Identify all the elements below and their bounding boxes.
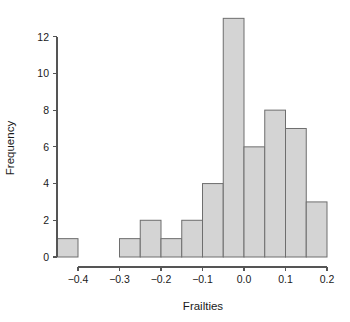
y-axis-tick-label: 10	[37, 67, 49, 79]
x-axis-tick-label: 0.0	[237, 273, 252, 285]
histogram-bar	[57, 239, 78, 257]
y-axis-title: Frequency	[4, 121, 16, 176]
x-axis-tick-label: 0.2	[320, 273, 335, 285]
y-axis-tick-label: 6	[43, 141, 49, 153]
y-axis-tick-label: 4	[43, 177, 49, 189]
histogram-bar	[286, 128, 307, 257]
histogram-bar	[203, 184, 224, 257]
x-axis-tick-label: 0.1	[278, 273, 293, 285]
y-axis-tick-label: 2	[43, 214, 49, 226]
histogram-figure: 024681012 −0.4−0.3−0.2−0.10.00.10.2 Freq…	[0, 0, 350, 322]
histogram-bar	[161, 239, 182, 257]
x-axis-tick-label: −0.1	[192, 273, 213, 285]
x-axis-title: Frailties	[183, 300, 224, 312]
histogram-bar	[140, 220, 161, 257]
histogram-bar	[223, 18, 244, 257]
histogram-bar	[265, 110, 286, 257]
histogram-bar	[182, 220, 203, 257]
y-axis-tick-label: 8	[43, 104, 49, 116]
x-axis-tick-label: −0.4	[68, 273, 89, 285]
y-axis-tick-label: 12	[37, 31, 49, 43]
x-axis-tick-label: −0.3	[109, 273, 130, 285]
x-axis-tick-label: −0.2	[151, 273, 172, 285]
histogram-bar	[244, 147, 265, 257]
histogram-bar	[120, 239, 141, 257]
histogram-bar	[306, 202, 327, 257]
y-axis-tick-label: 0	[43, 251, 49, 263]
